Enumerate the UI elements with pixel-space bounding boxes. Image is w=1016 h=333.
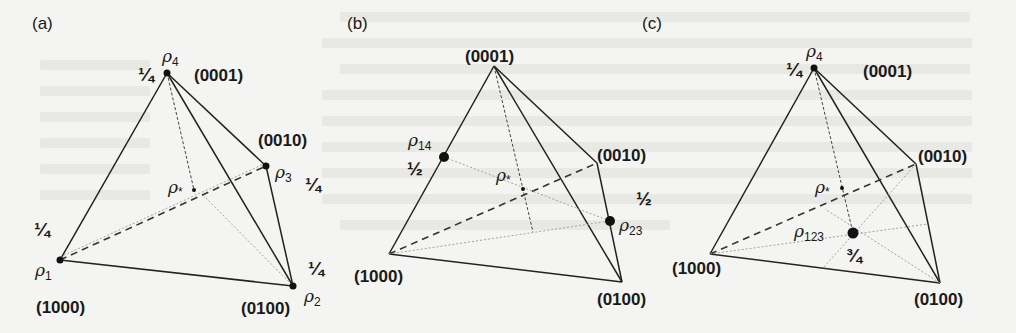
faint-line-rho14-rho23 xyxy=(444,157,610,221)
label-rho123: ρ123 xyxy=(793,221,824,244)
edge-top-0100 xyxy=(494,66,622,282)
weight-rho123: ¾ xyxy=(846,245,864,266)
faint-median xyxy=(825,209,940,283)
point-rho1 xyxy=(57,257,64,264)
weight-rho4: ¼ xyxy=(786,59,804,80)
aux-line-4-center xyxy=(167,73,194,190)
edge-0010-0100 xyxy=(916,164,940,283)
label-rho4: ρ4 xyxy=(805,41,823,64)
point-rho14 xyxy=(439,152,449,162)
label-rho3: ρ3 xyxy=(274,162,292,185)
vertex-0100-label: (0100) xyxy=(914,290,963,309)
edge-top-0010 xyxy=(494,66,597,163)
vertex-1000-label: (1000) xyxy=(354,267,403,286)
point-rho-star xyxy=(840,186,844,190)
point-rho4 xyxy=(164,70,171,77)
label-rho4: ρ4 xyxy=(161,46,179,69)
vertex-0001-label: (0001) xyxy=(465,47,514,66)
vertex-0010-label: (0010) xyxy=(597,146,646,165)
point-rho-star xyxy=(192,188,196,192)
edge-4-3 xyxy=(167,73,266,166)
weight-rho2: ¼ xyxy=(308,258,326,279)
point-rho23 xyxy=(605,216,615,226)
label-rho23: ρ23 xyxy=(618,215,643,238)
panel-b-label: (b) xyxy=(347,14,368,33)
label-rho-star: ρ* xyxy=(167,177,183,199)
label-rho1: ρ1 xyxy=(34,260,52,283)
panel-a: (a) ρ4 ¼ (0001) (0010) ρ3 ¼ ρ* ¼ ρ1 (100… xyxy=(32,14,326,318)
vertex-1000-label: (1000) xyxy=(672,259,721,278)
edge-1-2 xyxy=(60,260,293,286)
point-rho3 xyxy=(263,163,270,170)
point-rho4 xyxy=(811,65,818,72)
vertex-0100-label: (0100) xyxy=(597,290,646,309)
panel-b: (b) (0001) (0010) (1000) (0100) ρ14 ½ ρ*… xyxy=(347,14,652,309)
weight-rho3: ¼ xyxy=(305,174,323,195)
point-rho-star xyxy=(521,187,525,191)
vertex-1000-label: (1000) xyxy=(36,298,85,317)
vertex-0010-label: (0010) xyxy=(258,131,307,150)
vertex-0100-label: (0100) xyxy=(241,299,290,318)
edge-1000-0100 xyxy=(710,254,940,283)
tetrahedra-figure: (a) ρ4 ¼ (0001) (0010) ρ3 ¼ ρ* ¼ ρ1 (100… xyxy=(0,0,1016,333)
aux-line-top-foot xyxy=(494,66,533,232)
vertex-0001-label: (0001) xyxy=(194,66,243,85)
label-rho2: ρ2 xyxy=(303,286,321,309)
weight-rho1: ¼ xyxy=(34,219,52,240)
label-rho-star: ρ* xyxy=(814,177,830,199)
vertex-0010-label: (0010) xyxy=(918,147,967,166)
faint-median xyxy=(823,164,916,268)
edge-top-0100 xyxy=(814,68,940,283)
edge-top-0010 xyxy=(814,68,916,164)
faint-line xyxy=(60,163,266,257)
edge-1000-0100 xyxy=(389,254,622,282)
label-rho14: ρ14 xyxy=(407,130,432,153)
weight-rho14: ½ xyxy=(407,158,423,179)
aux-line-rho4-rho123 xyxy=(814,68,853,233)
weight-rho23: ½ xyxy=(636,188,652,209)
point-rho2 xyxy=(290,283,297,290)
hidden-edge-1-3 xyxy=(60,166,266,260)
panel-c-label: (c) xyxy=(642,14,662,33)
weight-rho4: ¼ xyxy=(138,64,156,85)
panel-a-label: (a) xyxy=(32,14,53,33)
vertex-0001-label: (0001) xyxy=(863,62,912,81)
label-rho-star: ρ* xyxy=(495,165,511,187)
edge-4-1 xyxy=(60,73,167,260)
panel-c: (c) ρ4 ¼ (0001) (0010) (1000) (0100) ρ* … xyxy=(642,14,967,309)
faint-line-1000-rho23 xyxy=(389,221,610,254)
point-rho123 xyxy=(848,228,859,239)
